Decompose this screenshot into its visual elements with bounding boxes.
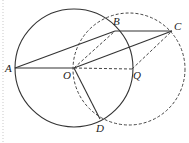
label-b: B (113, 15, 120, 27)
label-q: Q (133, 69, 141, 81)
label-d: D (95, 122, 104, 134)
label-a: A (4, 62, 12, 74)
label-c: C (174, 20, 182, 32)
segment-ob-dashed (74, 31, 115, 68)
segment-oq-dashed (74, 68, 132, 69)
label-o: O (63, 69, 71, 81)
segment-oc (74, 31, 172, 68)
geometry-diagram: A B C O Q D (0, 0, 189, 143)
segment-ab (15, 31, 115, 68)
segment-qc-dashed (132, 31, 172, 69)
segment-od (74, 68, 100, 119)
